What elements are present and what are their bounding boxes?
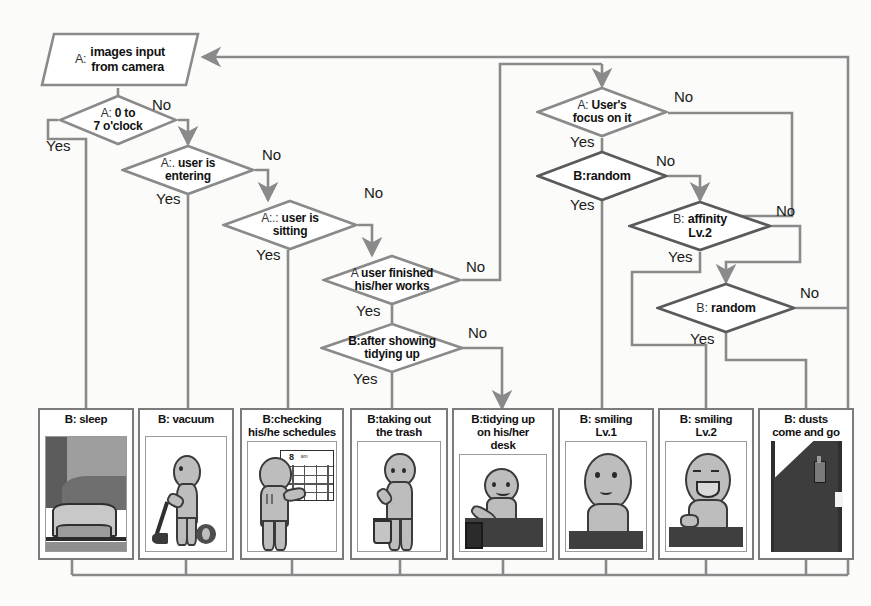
decision-line1: user finished: [361, 266, 433, 280]
edge-label-entering-yes: Yes: [156, 190, 180, 207]
edge-label-focus-yes: Yes: [570, 133, 594, 150]
flowchart-canvas: A: images input from camera A: 0 to 7 o'…: [0, 0, 871, 606]
decision-line1: B:random: [573, 169, 630, 183]
decision-line1: User's: [592, 98, 627, 112]
decision-line2: Lv.2: [688, 226, 711, 240]
decision-random-2-label: B: random: [692, 301, 759, 315]
decision-line1: random: [711, 301, 756, 315]
decision-line1: B:after showing: [348, 334, 436, 348]
decision-user-finished-works-label: A user finished his/her works: [347, 267, 437, 294]
decision-line2: entering: [165, 169, 211, 183]
input-node-label: A: images input from camera: [40, 32, 200, 87]
behaviour-art-schedule: 8 am: [247, 441, 337, 552]
input-node-prefix: A:: [75, 52, 86, 66]
decision-line1: user is: [178, 156, 215, 170]
decision-random-2[interactable]: B: random: [656, 282, 796, 334]
decision-user-entering[interactable]: A:. user is entering: [121, 144, 255, 196]
decision-after-showing-tidying-up[interactable]: B:after showing tidying up: [320, 322, 464, 374]
behaviour-box-vacuum[interactable]: B: vacuum: [138, 408, 234, 560]
schedule-caption: am: [301, 453, 308, 459]
behaviour-art-desk: [459, 454, 547, 552]
edge-label-sitting-yes: Yes: [256, 246, 280, 263]
input-node-images-from-camera[interactable]: A: images input from camera: [40, 32, 200, 87]
edge-label-tidyshow-no: No: [468, 324, 487, 341]
decision-after-showing-label: B:after showing tidying up: [344, 335, 440, 362]
decision-user-sitting-label: A:.: user is sitting: [257, 212, 323, 239]
decision-affinity-lv2[interactable]: B: affinity Lv.2: [628, 200, 772, 252]
behaviour-box-dusts[interactable]: B: dusts come and go: [758, 408, 854, 560]
decision-line2: tidying up: [364, 347, 419, 361]
edge-label-random1-yes: Yes: [570, 196, 594, 213]
edge-label-entering-no: No: [262, 146, 281, 163]
behaviour-label-smiling-lv1: B: smiling Lv.1: [560, 410, 652, 441]
decision-prefix: B:: [696, 301, 707, 315]
behaviour-label-dusts: B: dusts come and go: [760, 410, 852, 441]
decision-prefix: A:.:: [261, 211, 278, 225]
edge-label-focus-no: No: [674, 88, 693, 105]
edge-label-time-no: No: [152, 96, 171, 113]
decision-user-entering-label: A:. user is entering: [157, 157, 220, 184]
behaviour-label-vacuum: B: vacuum: [140, 410, 232, 436]
behaviour-box-schedule[interactable]: B:checking his/he schedules 8 am: [240, 408, 344, 560]
edge-label-affinity-yes: Yes: [668, 248, 692, 265]
decision-affinity-lv2-label: B: affinity Lv.2: [669, 212, 731, 240]
edge-label-time-yes: Yes: [46, 137, 70, 154]
decision-random-1[interactable]: B:random: [536, 150, 668, 202]
behaviour-label-desk: B:tidying up on his/her desk: [454, 410, 552, 454]
behaviour-box-sleep[interactable]: B: sleep: [38, 408, 134, 560]
edge-label-tidyshow-yes: Yes: [353, 370, 377, 387]
decision-random-1-label: B:random: [569, 169, 634, 183]
decision-line1: affinity: [688, 212, 727, 226]
decision-prefix: A:: [101, 106, 112, 120]
decision-time-of-day-label: A: 0 to 7 o'clock: [89, 107, 146, 134]
edge-label-random1-no: No: [656, 152, 675, 169]
behaviour-label-smiling-lv2: B: smiling Lv.2: [660, 410, 752, 441]
behaviour-label-trash: B:taking out the trash: [352, 410, 446, 441]
behaviour-label-schedule: B:checking his/he schedules: [242, 410, 342, 441]
decision-user-focus-label: A: User's focus on it: [569, 99, 635, 126]
behaviour-box-desk[interactable]: B:tidying up on his/her desk: [452, 408, 554, 560]
behaviour-box-smiling-lv2[interactable]: B: smiling Lv.2: [658, 408, 754, 560]
decision-prefix: B:: [673, 212, 684, 226]
decision-user-sitting[interactable]: A:.: user is sitting: [222, 199, 358, 251]
behaviour-art-dusts: [766, 441, 846, 552]
decision-line2: sitting: [273, 224, 308, 238]
decision-user-focus[interactable]: A: User's focus on it: [536, 86, 668, 138]
edge-label-random2-no: No: [800, 284, 819, 301]
behaviour-art-smiling-lv1: [565, 441, 647, 552]
decision-line2: focus on it: [573, 111, 631, 125]
edge-label-finished-no: No: [466, 258, 485, 275]
edge-label-sitting-no: No: [364, 184, 383, 201]
behaviour-art-vacuum: [145, 436, 227, 552]
decision-line2: 7 o'clock: [93, 119, 142, 133]
decision-prefix: A: [351, 266, 358, 280]
behaviour-art-sleep: [45, 436, 127, 552]
behaviour-box-trash[interactable]: B:taking out the trash: [350, 408, 448, 560]
decision-user-finished-works[interactable]: A user finished his/her works: [322, 254, 462, 306]
schedule-number: 8: [289, 452, 294, 462]
behaviour-art-smiling-lv2: [665, 441, 747, 552]
decision-line1: user is: [282, 211, 319, 225]
edge-label-finished-yes: Yes: [356, 302, 380, 319]
decision-line2: his/her works: [355, 279, 430, 293]
behaviour-label-sleep: B: sleep: [40, 410, 132, 436]
decision-line1: 0 to: [115, 106, 136, 120]
edge-label-affinity-no: No: [776, 202, 795, 219]
decision-prefix: A:: [577, 98, 588, 112]
edge-label-random2-yes: Yes: [690, 330, 714, 347]
decision-prefix: A:.: [161, 156, 175, 170]
behaviour-box-smiling-lv1[interactable]: B: smiling Lv.1: [558, 408, 654, 560]
input-node-text: images input from camera: [90, 45, 165, 74]
behaviour-art-trash: [357, 441, 441, 552]
